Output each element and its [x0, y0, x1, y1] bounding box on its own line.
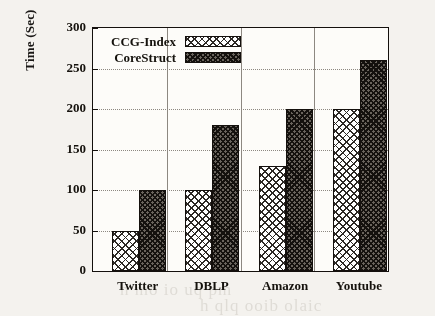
y-tick-label: 0	[40, 262, 86, 278]
y-tick-mark	[93, 271, 98, 272]
chart-legend: CCG-Index CoreStruct	[107, 32, 245, 67]
x-tick-label-twitter: Twitter	[98, 278, 178, 294]
bar-corestruct-dblp	[212, 125, 239, 271]
y-axis-label: Time (Sec)	[22, 0, 38, 95]
y-tick-mark	[93, 231, 98, 232]
y-tick-label: 100	[40, 181, 86, 197]
bar-ccg-index-twitter	[112, 231, 139, 272]
legend-swatch-ccg-index	[185, 36, 241, 47]
legend-item-ccg-index: CCG-Index	[111, 34, 241, 49]
x-tick-label-dblp: DBLP	[171, 278, 251, 294]
bar-corestruct-twitter	[139, 190, 166, 271]
y-tick-mark	[93, 150, 98, 151]
legend-label: CoreStruct	[114, 50, 176, 66]
bar-ccg-index-youtube	[333, 109, 360, 271]
y-tick-label: 300	[40, 19, 86, 35]
legend-item-corestruct: CoreStruct	[111, 50, 241, 65]
bar-corestruct-amazon	[286, 109, 313, 271]
x-tick-label-amazon: Amazon	[245, 278, 325, 294]
bar-corestruct-youtube	[360, 60, 387, 271]
bar-ccg-index-dblp	[185, 190, 212, 271]
y-tick-mark	[93, 69, 98, 70]
legend-label: CCG-Index	[111, 34, 176, 50]
y-tick-mark	[93, 109, 98, 110]
y-tick-label: 200	[40, 100, 86, 116]
y-tick-label: 250	[40, 60, 86, 76]
x-tick-label-youtube: Youtube	[319, 278, 399, 294]
y-tick-mark	[93, 28, 98, 29]
y-tick-label: 50	[40, 222, 86, 238]
y-tick-label: 150	[40, 141, 86, 157]
plot-area: CCG-Index CoreStruct	[92, 27, 389, 272]
category-divider	[314, 28, 315, 271]
legend-swatch-corestruct	[185, 52, 241, 63]
y-tick-mark	[93, 190, 98, 191]
bar-ccg-index-amazon	[259, 166, 286, 271]
